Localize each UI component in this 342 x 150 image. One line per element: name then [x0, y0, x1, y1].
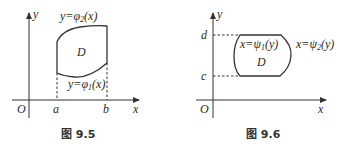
- y-axis-label: y: [216, 7, 223, 21]
- caption-fig-9-6: 图 9.6: [246, 128, 281, 141]
- tick-label-b: b: [103, 102, 109, 116]
- right-curve-label: x=ψ2(y): [295, 37, 334, 52]
- tick-label-c: c: [201, 69, 207, 83]
- x-axis-label: x: [317, 102, 324, 116]
- caption-fig-9-5: 图 9.5: [61, 128, 95, 141]
- diagram-canvas: y x O a b D y=φ2(x) y=φ1(x) 图 9.5 y x O …: [0, 0, 342, 150]
- upper-curve-label: y=φ2(x): [59, 9, 97, 24]
- region-label-d: D: [76, 45, 86, 59]
- tick-label-d: d: [201, 28, 208, 42]
- origin-label: O: [17, 102, 26, 116]
- figure-9-6: y x O d c D x=ψ1(y) x=ψ2(y) 图 9.6: [196, 7, 334, 141]
- lower-curve-label: y=φ1(x): [67, 77, 105, 92]
- x-axis-label: x: [132, 102, 139, 116]
- figure-9-5: y x O a b D y=φ2(x) y=φ1(x) 图 9.5: [12, 7, 139, 141]
- y-axis-label: y: [32, 7, 39, 21]
- left-curve-label: x=ψ1(y): [239, 37, 278, 52]
- origin-label: O: [200, 102, 209, 116]
- tick-label-a: a: [53, 102, 59, 116]
- region-label-d: D: [256, 55, 266, 69]
